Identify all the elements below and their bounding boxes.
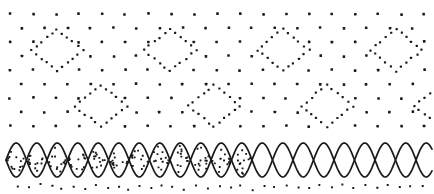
pattern-canvas xyxy=(0,0,434,194)
diamond-outline-dot xyxy=(84,114,86,116)
diamond-outline-dot xyxy=(46,61,48,63)
lattice-dot xyxy=(262,13,265,16)
lattice-dot xyxy=(193,13,196,16)
diamond-outline-dot xyxy=(309,49,311,51)
wave-lens-fill-dot xyxy=(51,156,53,158)
lattice-dot xyxy=(308,13,311,16)
wave-lens-fill-dot xyxy=(96,154,98,156)
diamond-outline-dot xyxy=(261,45,263,47)
diamond-outline-dot xyxy=(379,57,381,59)
wave-lens-fill-dot xyxy=(7,159,9,161)
diamond-outline-dot xyxy=(410,57,412,59)
scatter-dot xyxy=(139,185,141,187)
wave-lens-fill-dot xyxy=(212,160,214,162)
diamond-outline-dot xyxy=(154,57,156,59)
lattice-dot xyxy=(423,68,426,71)
wave-lens-fill-dot xyxy=(241,172,243,174)
wave-lens-fill-dot xyxy=(59,171,61,173)
diamond-outline-dot xyxy=(369,50,371,52)
diamond-outline-dot xyxy=(143,48,145,50)
lattice-dot xyxy=(400,97,403,100)
lattice-dot xyxy=(146,124,149,127)
lattice-dot xyxy=(32,68,35,71)
diamond-outline-dot xyxy=(261,53,263,55)
wave-lens-fill-dot xyxy=(41,163,43,165)
lattice-dot xyxy=(354,41,357,44)
lattice-dot xyxy=(112,26,115,29)
scatter-dot xyxy=(84,188,86,190)
lattice-dot xyxy=(354,69,357,72)
diamond-outline-dot xyxy=(300,105,302,107)
lattice-dot xyxy=(135,111,138,114)
diamond-outline-dot xyxy=(67,61,69,63)
wave-lens-fill-dot xyxy=(180,148,182,150)
lattice-dot xyxy=(343,55,346,58)
wave-lens-fill-dot xyxy=(153,151,155,153)
wave-lens-fill-dot xyxy=(36,162,38,164)
diamond-outline-dot xyxy=(78,110,80,112)
diamond-outline-dot xyxy=(51,32,53,34)
scatter-dot xyxy=(28,186,30,188)
wave-lens-fill-dot xyxy=(99,161,101,163)
diamond-outline-dot xyxy=(164,32,166,34)
wave-lens-fill-dot xyxy=(50,165,52,167)
diamond-outline-dot xyxy=(375,44,377,46)
wave-lens-fill-dot xyxy=(11,168,13,170)
wave-lens-fill-dot xyxy=(95,152,97,154)
lattice-dot xyxy=(21,27,24,30)
wave-lens-fill-dot xyxy=(10,151,12,153)
wave-lens-fill-dot xyxy=(237,154,239,156)
diamond-outline-dot xyxy=(311,97,313,99)
scatter-dot xyxy=(40,183,42,185)
lattice-dot xyxy=(77,41,80,44)
diamond-outline-dot xyxy=(90,117,92,119)
diamond-outline-dot xyxy=(390,65,392,67)
scatter-dot xyxy=(239,184,241,186)
wave-lens-fill-dot xyxy=(241,149,243,151)
lattice-dot xyxy=(146,96,149,99)
diamond-outline-dot xyxy=(228,113,230,115)
wave-lens-fill-dot xyxy=(70,164,72,166)
lattice-dot xyxy=(20,111,23,114)
lattice-dot xyxy=(101,69,104,72)
lattice-dot xyxy=(388,83,391,86)
diamond-outline-dot xyxy=(74,105,76,107)
lattice-dot xyxy=(262,97,265,100)
diamond-outline-dot xyxy=(223,117,225,119)
wave-lens-fill-dot xyxy=(242,167,244,169)
scatter-dot xyxy=(273,186,275,188)
lattice-dot xyxy=(423,125,426,128)
scatter-dot xyxy=(95,184,97,186)
diamond-outline-dot xyxy=(203,117,205,119)
lattice-dot xyxy=(376,12,379,15)
diamond-outline-dot xyxy=(331,122,333,124)
lattice-dot xyxy=(146,68,149,71)
lattice-dot xyxy=(273,83,276,86)
lattice-dot xyxy=(135,82,138,85)
lattice-dot xyxy=(193,125,196,128)
wave-lens-fill-dot xyxy=(248,158,250,160)
diamond-outline-dot xyxy=(420,49,422,51)
diamond-outline-dot xyxy=(76,53,78,55)
diamond-outline-dot xyxy=(385,36,387,38)
lattice-dot xyxy=(101,12,104,15)
wave-lens-fill-dot xyxy=(95,155,97,157)
lattice-dot xyxy=(192,41,195,44)
wave-lens-fill-dot xyxy=(194,164,196,166)
wave-lens-fill-dot xyxy=(220,149,222,151)
wave-lens-fill-dot xyxy=(112,160,114,162)
wave-lens-fill-dot xyxy=(56,168,58,170)
wave-lens-fill-dot xyxy=(34,163,36,165)
wave-lens-fill-dot xyxy=(113,167,115,169)
diamond-outline-dot xyxy=(147,54,149,56)
wave-lens-fill-dot xyxy=(181,150,183,152)
lattice-dot xyxy=(215,41,218,44)
wave-lens-fill-dot xyxy=(18,169,20,171)
wave-lens-fill-dot xyxy=(157,153,159,155)
diamond-outline-dot xyxy=(266,41,268,43)
diamond-outline-dot xyxy=(154,40,156,42)
wave-lens-fill-dot xyxy=(113,152,115,154)
diamond-outline-dot xyxy=(315,92,317,94)
diamond-outline-dot xyxy=(94,121,96,123)
diamond-outline-dot xyxy=(272,62,274,64)
